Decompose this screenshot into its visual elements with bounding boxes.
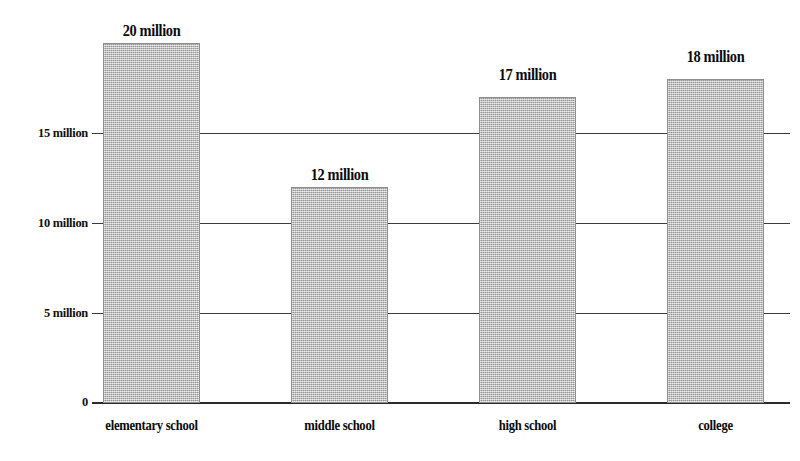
value-label-elementary-school: 20 million [88,22,215,40]
y-tick-label-15million: 15 million [7,125,88,141]
bar-high-school[interactable] [479,97,576,403]
y-tick-label-5million: 5 million [7,305,88,321]
y-tick-label-10million: 10 million [7,215,88,231]
bar-elementary-school[interactable] [103,43,200,403]
plot-area: 15 million 10 million 5 million 0 20 mil… [0,0,800,461]
value-label-college: 18 million [652,48,779,66]
bar-middle-school[interactable] [291,187,388,403]
bar-chart: 15 million 10 million 5 million 0 20 mil… [0,0,800,461]
category-label-elementary-school: elementary school [79,418,224,434]
category-label-college: college [643,418,788,434]
category-label-middle-school: middle school [267,418,412,434]
category-label-high-school: high school [455,418,600,434]
value-label-middle-school: 12 million [276,166,403,184]
value-label-high-school: 17 million [464,66,591,84]
bar-college[interactable] [667,79,764,403]
y-tick-label-0: 0 [7,394,88,410]
